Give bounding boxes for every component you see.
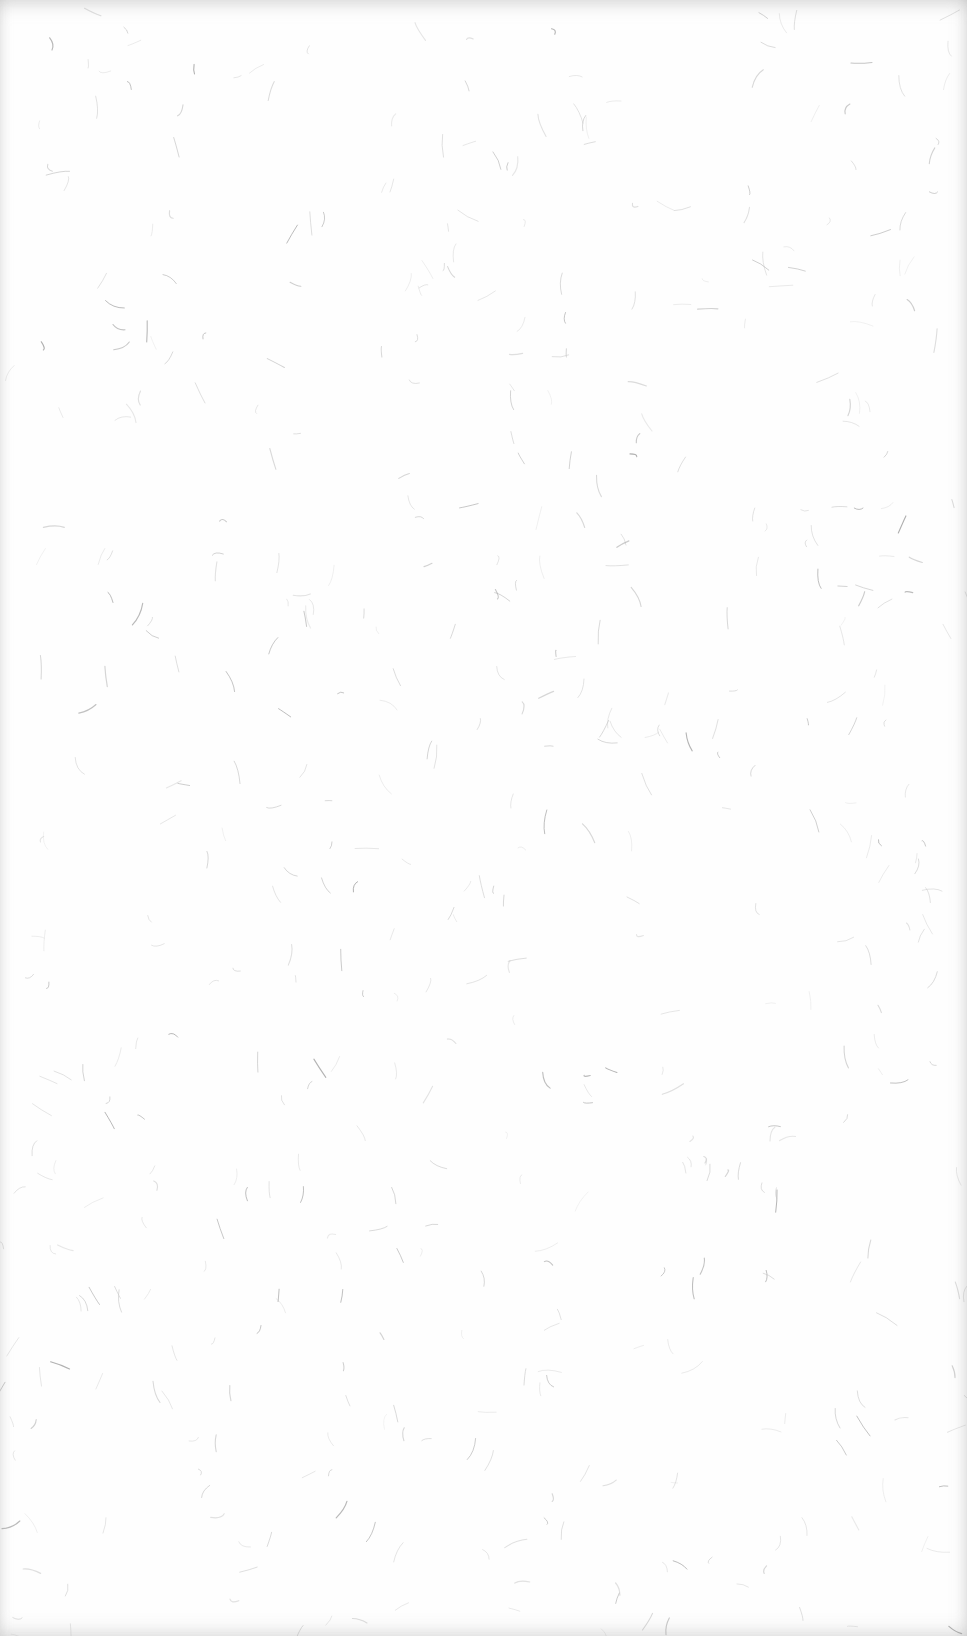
paper-sheet [0,0,967,1636]
paper-fibers [0,0,967,1636]
